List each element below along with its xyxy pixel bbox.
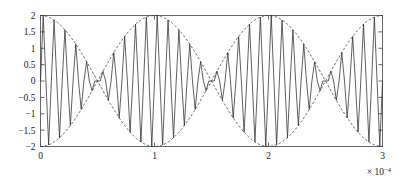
figure-background — [0, 0, 399, 185]
x-tick-label: 3 — [380, 151, 385, 161]
y-tick-label: 0 — [31, 76, 36, 86]
y-tick-label: −2 — [25, 142, 35, 152]
y-tick-label: 0.5 — [24, 60, 36, 70]
y-tick-label: −1 — [25, 109, 35, 119]
y-tick-label: 1.5 — [24, 27, 36, 37]
beat-waveform-chart: 21.510.50−0.5−1−1.5−2 0123 × 10−4 — [0, 0, 399, 185]
y-tick-label: −1.5 — [18, 126, 35, 136]
y-tick-label: 1 — [31, 44, 36, 54]
y-tick-label: 2 — [31, 11, 36, 21]
x-tick-label: 1 — [152, 151, 157, 161]
x-tick-label: 2 — [266, 151, 271, 161]
y-tick-label: −0.5 — [18, 93, 35, 103]
figure-container: 21.510.50−0.5−1−1.5−2 0123 × 10−4 — [0, 0, 399, 185]
x-tick-label: 0 — [38, 151, 43, 161]
